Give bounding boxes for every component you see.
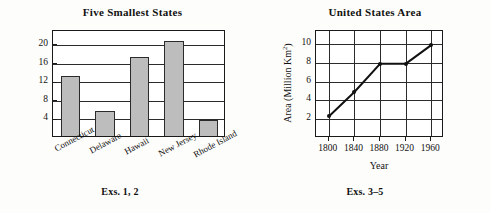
line-chart-x-tick-mark [430, 137, 431, 141]
line-y-axis-label-text: Area (Million Km [282, 50, 293, 123]
line-chart-caption: Exs. 3–5 [300, 186, 430, 197]
line-chart-x-tick-mark [353, 137, 354, 141]
line-chart-data-point [404, 62, 408, 66]
line-chart-x-tick-mark [379, 137, 380, 141]
figure-page: Five Smallest States Area (Thousands Km2… [0, 0, 490, 213]
bar-chart-y-tick-mark [53, 119, 57, 120]
bar-chart-bar [199, 120, 218, 136]
line-chart-data-point [378, 62, 382, 66]
bar-chart-y-tick-label: 20 [30, 38, 48, 48]
line-chart-data-point [352, 90, 356, 94]
bar-chart-y-tick-label: 16 [30, 57, 48, 67]
line-chart-y-axis-label: Area (Million Km2) [281, 33, 293, 133]
bar-chart-gridline [53, 45, 224, 46]
bar-chart-title: Five Smallest States [30, 6, 235, 18]
line-chart-data-point [327, 114, 331, 118]
line-chart-y-tick-label: 6 [295, 75, 311, 85]
bar-chart-figure: Five Smallest States Area (Thousands Km2… [0, 0, 245, 213]
bar-chart-bar [130, 57, 149, 136]
line-chart-series [316, 31, 444, 138]
line-chart-figure: United States Area Area (Million Km2) Ye… [245, 0, 490, 213]
bar-chart-y-tick-label: 4 [30, 112, 48, 122]
bar-chart-y-tick-label: 12 [30, 75, 48, 85]
line-chart-data-point [429, 43, 433, 47]
bar-chart-y-tick-mark [53, 63, 57, 64]
bar-chart-bar [61, 76, 80, 136]
line-chart-y-tick-label: 4 [295, 93, 311, 103]
line-chart-title: United States Area [285, 6, 465, 18]
line-chart-x-tick-label: 1960 [415, 143, 445, 153]
bar-chart-x-tick-label: Hawaii [122, 135, 150, 156]
line-chart-x-axis-label: Year [315, 160, 443, 171]
line-chart-y-tick-label: 8 [295, 56, 311, 66]
bar-chart-y-tick-mark [53, 100, 57, 101]
bar-chart-y-tick-mark [53, 44, 57, 45]
line-chart-plot-area [315, 30, 443, 137]
line-chart-x-tick-mark [328, 137, 329, 141]
line-y-axis-label-paren: ) [282, 43, 293, 46]
bar-chart-plot-area [52, 30, 225, 137]
line-chart-y-tick-label: 10 [295, 37, 311, 47]
line-chart-x-tick-mark [405, 137, 406, 141]
bar-chart-y-tick-label: 8 [30, 94, 48, 104]
line-chart-y-tick-label: 2 [295, 112, 311, 122]
bar-chart-caption: Exs. 1, 2 [55, 186, 185, 197]
bar-chart-bar [164, 41, 183, 136]
bar-chart-y-tick-mark [53, 82, 57, 83]
